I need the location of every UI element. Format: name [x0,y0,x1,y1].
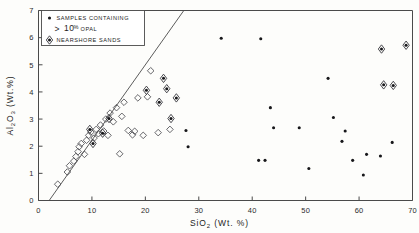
data-point-opal-sample [259,37,262,40]
data-point-opal-sample [269,106,272,109]
data-point-open-diamond [135,95,142,102]
data-point-nearshore-core [382,83,385,86]
scatter-plot-figure: 01020304050607001234567SiO2 (Wt. %)Al2O3… [0,0,419,233]
y-axis-tick-label: 6 [29,33,33,42]
data-point-opal-sample [391,141,394,144]
data-point-open-diamond [147,67,154,74]
data-point-opal-sample [272,126,275,129]
legend-label-nearshore: NEARSHORE SANDS [57,37,122,43]
data-point-nearshore-core [108,117,111,120]
plot-canvas: 01020304050607001234567SiO2 (Wt. %)Al2O3… [0,0,419,233]
data-point-opal-sample [48,16,51,19]
data-point-opal-sample [362,173,365,176]
y-axis-tick-label: 2 [29,142,33,151]
y-axis-tick-label: 7 [29,6,33,15]
data-point-open-diamond [70,158,77,165]
data-point-nearshore-core [145,89,148,92]
data-point-open-diamond [121,99,128,106]
legend-gt-symbol: > [55,24,60,34]
x-axis-tick-label: 50 [301,206,310,215]
data-point-nearshore-core [380,48,383,51]
data-point-opal-sample [187,145,190,148]
y-axis-tick-label: 5 [29,61,33,70]
legend-label-opal-line2: OPAL [81,26,98,32]
data-point-nearshore-core [170,117,173,120]
data-point-opal-sample [327,77,330,80]
data-point-opal-sample [340,140,343,143]
legend-label-opal-line1: SAMPLES CONTAINING [57,15,130,21]
data-point-opal-sample [263,159,266,162]
x-axis-tick-label: 30 [194,206,203,215]
data-point-opal-sample [298,126,301,129]
y-axis-tick-label: 1 [29,169,33,178]
data-point-opal-sample [365,153,368,156]
data-point-open-diamond [119,113,126,120]
x-axis-tick-label: 70 [408,206,417,215]
data-point-nearshore-core [88,128,91,131]
x-axis-tick-label: 20 [141,206,150,215]
data-point-nearshore-core [162,77,165,80]
data-point-open-diamond [140,132,147,139]
x-axis-tick-label: 10 [88,206,97,215]
data-point-open-diamond [54,181,61,188]
data-point-nearshore-core [405,44,408,47]
data-point-nearshore-core [165,87,168,90]
data-point-open-diamond [144,94,151,101]
data-point-opal-sample [379,154,382,157]
data-point-nearshore-core [48,39,51,42]
y-axis-tick-label: 0 [29,196,33,205]
data-point-nearshore-core [158,101,161,104]
data-point-open-diamond [125,127,132,134]
data-point-opal-sample [332,116,335,119]
x-axis-tick-label: 60 [355,206,364,215]
data-point-nearshore-core [392,84,395,87]
data-point-open-diamond [167,126,174,133]
legend-percent-symbol: % [74,24,80,30]
x-axis-title: SiO2 (Wt. %) [190,218,249,229]
data-point-nearshore-core [175,96,178,99]
data-point-open-diamond [116,151,123,158]
x-axis-tick-label: 40 [248,206,257,215]
data-point-nearshore-core [101,132,104,135]
data-point-open-diamond [155,129,162,136]
data-point-opal-sample [257,159,260,162]
data-point-opal-sample [344,129,347,132]
data-point-opal-sample [184,129,187,132]
data-point-opal-sample [220,37,223,40]
x-axis-tick-label: 0 [36,206,40,215]
data-point-opal-sample [307,167,310,170]
y-axis-tick-label: 4 [29,88,33,97]
data-point-opal-sample [351,159,354,162]
data-point-nearshore-core [91,142,94,145]
y-axis-title: Al2O3 (Wt.%) [5,75,16,135]
y-axis-tick-label: 3 [29,115,33,124]
